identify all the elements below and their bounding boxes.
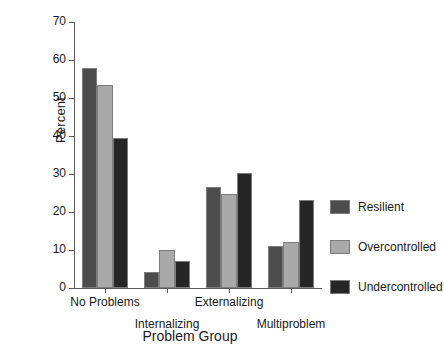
x-axis-tick-label: No Problems — [45, 295, 165, 309]
y-axis-tick-label: 0 — [40, 280, 66, 294]
bar — [97, 85, 113, 288]
legend-swatch — [330, 280, 350, 294]
bar — [221, 194, 237, 288]
bar — [206, 187, 222, 288]
x-axis-tick — [229, 288, 230, 293]
legend-item: Resilient — [330, 198, 443, 216]
y-axis-tick — [69, 60, 74, 61]
y-axis-tick — [69, 174, 74, 175]
bar — [175, 261, 191, 288]
x-axis-tick — [167, 288, 168, 293]
x-axis-tick — [291, 288, 292, 293]
legend: ResilientOvercontrolledUndercontrolled — [330, 198, 443, 318]
x-axis-tick-label: Externalizing — [169, 295, 289, 309]
y-axis-tick — [69, 288, 74, 289]
x-axis-tick — [105, 288, 106, 293]
x-axis-title: Problem Group — [0, 328, 380, 344]
x-axis-line — [74, 288, 322, 289]
y-axis-tick — [69, 98, 74, 99]
y-axis-tick-label: 60 — [40, 52, 66, 66]
legend-swatch — [330, 200, 350, 214]
y-axis-label: Percent — [53, 65, 73, 175]
bar — [283, 242, 299, 288]
bar — [299, 200, 315, 288]
y-axis-tick-label: 10 — [40, 242, 66, 256]
plot-area: 010203040506070 — [74, 22, 322, 288]
y-axis-tick-label: 30 — [40, 166, 66, 180]
legend-label: Undercontrolled — [358, 280, 443, 294]
bar — [113, 138, 129, 288]
legend-item: Overcontrolled — [330, 238, 443, 256]
bar-chart-figure: Percent 010203040506070 No ProblemsInter… — [0, 0, 444, 357]
bar — [144, 272, 160, 288]
y-axis-tick-label: 20 — [40, 204, 66, 218]
y-axis-tick — [69, 250, 74, 251]
y-axis-tick-label: 50 — [40, 90, 66, 104]
bar — [82, 68, 98, 288]
y-axis-tick — [69, 22, 74, 23]
legend-label: Overcontrolled — [358, 240, 436, 254]
bar — [237, 173, 253, 288]
y-axis-tick — [69, 212, 74, 213]
legend-label: Resilient — [358, 200, 404, 214]
legend-item: Undercontrolled — [330, 278, 443, 296]
bar — [268, 246, 284, 288]
y-axis-line — [74, 22, 75, 288]
y-axis-tick — [69, 136, 74, 137]
legend-swatch — [330, 240, 350, 254]
bar — [159, 250, 175, 288]
y-axis-tick-label: 40 — [40, 128, 66, 142]
y-axis-tick-label: 70 — [40, 14, 66, 28]
